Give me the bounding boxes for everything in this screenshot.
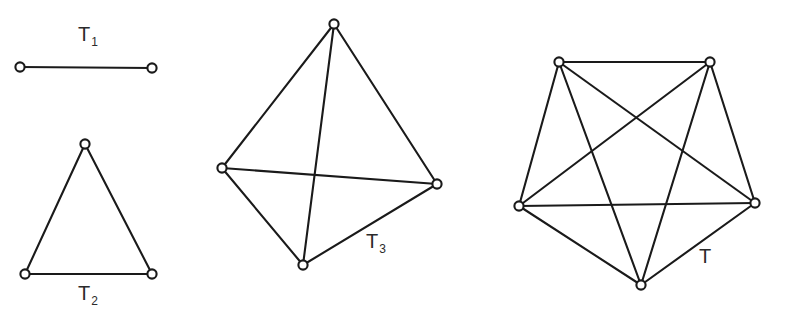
graph-label-t2: T2 [78, 283, 98, 307]
graph-edge [222, 168, 303, 265]
graph-t2 [20, 139, 156, 278]
graph-edge [519, 203, 755, 206]
graph-vertex [147, 63, 156, 72]
graph-edge [641, 203, 755, 285]
graph-vertex [298, 260, 307, 269]
graph-t [514, 57, 759, 289]
graph-t3 [217, 19, 441, 269]
graph-label-subscript: 3 [379, 242, 386, 256]
graph-vertex [15, 62, 24, 71]
graph-label-base: T [78, 23, 90, 45]
graph-label-base: T [366, 230, 378, 252]
graph-label-subscript: 1 [91, 35, 98, 49]
graph-vertex [705, 57, 714, 66]
graph-vertex [80, 139, 89, 148]
graph-edge [519, 62, 710, 206]
graph-diagram-svg [0, 0, 785, 316]
graph-t1 [15, 62, 156, 72]
graph-label-base: T [78, 282, 90, 304]
graph-vertex [329, 19, 338, 28]
graph-vertex [750, 198, 759, 207]
graph-vertex [147, 269, 156, 278]
graph-edge [20, 67, 152, 68]
graph-label-subscript: 2 [91, 294, 98, 308]
graph-label-t1: T1 [78, 24, 98, 48]
graph-edge [222, 168, 437, 184]
graph-vertex [217, 163, 226, 172]
figure-canvas: T1T2T3T [0, 0, 785, 316]
graph-label-base: T [699, 245, 711, 267]
graph-label-t: T [699, 246, 711, 266]
graph-edge [519, 206, 641, 285]
graph-vertex [554, 57, 563, 66]
graph-edge [519, 62, 559, 206]
graph-edge [559, 62, 755, 203]
graph-vertex [432, 179, 441, 188]
graph-edge [25, 144, 85, 274]
graph-edge [710, 62, 755, 203]
graph-edge [85, 144, 152, 274]
graph-edge [303, 24, 334, 265]
graph-edge [334, 24, 437, 184]
graph-edge [559, 62, 641, 285]
graph-vertex [20, 269, 29, 278]
graph-vertex [636, 280, 645, 289]
graph-label-t3: T3 [366, 231, 386, 255]
graph-vertex [514, 201, 523, 210]
